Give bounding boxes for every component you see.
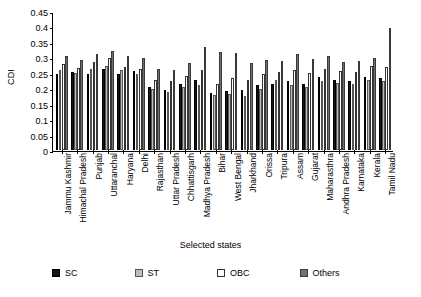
bar-group xyxy=(69,13,84,150)
x-label-cell: Kerala xyxy=(362,153,377,237)
bar-others xyxy=(358,61,361,150)
y-tick-label: 0 xyxy=(43,148,48,157)
bar-others xyxy=(342,62,345,150)
y-tick-mark xyxy=(50,28,53,29)
bar-group xyxy=(239,13,254,150)
y-tick-label: 0.4 xyxy=(35,24,48,33)
y-tick-mark xyxy=(50,13,53,14)
bar-others xyxy=(373,58,376,150)
bar-others xyxy=(65,56,68,150)
bar-group xyxy=(85,13,100,150)
legend-label: OBC xyxy=(230,268,250,278)
bar-others xyxy=(157,69,160,150)
bar-group xyxy=(100,13,115,150)
chart-legend: SCSTOBCOthers xyxy=(52,268,382,278)
legend-swatch-icon xyxy=(300,269,308,277)
y-tick-mark xyxy=(50,137,53,138)
bar-others xyxy=(265,60,268,150)
bar-group xyxy=(116,13,131,150)
y-tick-label: 0.05 xyxy=(30,132,48,141)
x-label-cell: Rajasthan xyxy=(146,153,161,237)
x-label-cell: Punjab xyxy=(84,153,99,237)
x-label-cell: Andhra Pradesh xyxy=(331,153,346,237)
x-label-cell: Karnataka xyxy=(347,153,362,237)
bar-group xyxy=(131,13,146,150)
y-tick-label: 0.15 xyxy=(30,101,48,110)
bar-group xyxy=(177,13,192,150)
bar-others xyxy=(127,56,130,150)
y-tick-label: 0.25 xyxy=(30,70,48,79)
bar-group xyxy=(54,13,69,150)
y-tick-mark xyxy=(50,44,53,45)
bar-group xyxy=(331,13,346,150)
y-tick-mark xyxy=(50,75,53,76)
legend-item-st: ST xyxy=(135,268,218,278)
y-tick-label: 0.1 xyxy=(35,117,48,126)
legend-item-sc: SC xyxy=(52,268,135,278)
cdi-bar-chart: CDI 00.050.10.150.20.250.30.350.40.45 Ja… xyxy=(0,0,421,297)
y-tick-mark xyxy=(50,106,53,107)
bar-others xyxy=(327,56,330,150)
bar-group xyxy=(285,13,300,150)
bar-others xyxy=(204,47,207,150)
bar-others xyxy=(219,52,222,150)
bar-group xyxy=(301,13,316,150)
bar-group xyxy=(208,13,223,150)
bar-groups xyxy=(54,13,393,150)
x-label-cell: Haryana xyxy=(115,153,130,237)
x-tick-label: Tamil Nadu xyxy=(388,153,397,196)
bar-others xyxy=(173,70,176,150)
bar-others xyxy=(235,53,238,150)
legend-swatch-icon xyxy=(52,269,60,277)
x-axis-title: Selected states xyxy=(0,240,421,250)
bar-others xyxy=(96,54,99,150)
legend-label: ST xyxy=(148,268,160,278)
bar-group xyxy=(193,13,208,150)
x-label-cell: Gujarat xyxy=(300,153,315,237)
bar-group xyxy=(270,13,285,150)
x-label-cell: Tripura xyxy=(269,153,284,237)
bar-others xyxy=(142,58,145,150)
bar-group xyxy=(378,13,393,150)
bar-others xyxy=(296,54,299,150)
y-tick-label: 0.45 xyxy=(30,9,48,18)
legend-item-obc: OBC xyxy=(217,268,300,278)
legend-label: Others xyxy=(313,268,340,278)
bar-others xyxy=(281,61,284,150)
plot-area xyxy=(52,13,393,152)
bar-group xyxy=(347,13,362,150)
bar-others xyxy=(312,59,315,150)
x-label-cell: Madhya Pradesh xyxy=(192,153,207,237)
y-tick-mark xyxy=(50,121,53,122)
x-label-cell: Jharkhand xyxy=(238,153,253,237)
x-label-cell: Himachal Pradesh xyxy=(68,153,83,237)
x-label-cell: Jammu Kashmir xyxy=(53,153,68,237)
legend-swatch-icon xyxy=(135,269,143,277)
bar-others xyxy=(250,63,253,150)
bar-others xyxy=(111,51,114,150)
legend-swatch-icon xyxy=(217,269,225,277)
bar-group xyxy=(254,13,269,150)
x-label-cell: Chhattisgarh xyxy=(177,153,192,237)
x-label-cell: Uttar Pradesh xyxy=(161,153,176,237)
bar-others xyxy=(188,63,191,150)
y-tick-mark xyxy=(50,59,53,60)
x-label-cell: Delhi xyxy=(130,153,145,237)
y-tick-label: 0.3 xyxy=(35,55,48,64)
x-label-cell: Orissa xyxy=(254,153,269,237)
x-axis-category-labels: Jammu KashmirHimachal PradeshPunjabUttar… xyxy=(53,153,393,237)
x-label-cell: Assam xyxy=(285,153,300,237)
bar-others xyxy=(80,60,83,150)
bar-group xyxy=(316,13,331,150)
y-tick-label: 0.2 xyxy=(35,86,48,95)
legend-item-others: Others xyxy=(300,268,383,278)
x-label-cell: Uttaranchal xyxy=(99,153,114,237)
x-label-cell: Tamil Nadu xyxy=(378,153,393,237)
y-tick-label: 0.35 xyxy=(30,39,48,48)
x-label-cell: Maharasthra xyxy=(316,153,331,237)
bar-group xyxy=(146,13,161,150)
bar-group xyxy=(223,13,238,150)
legend-label: SC xyxy=(65,268,78,278)
bar-group xyxy=(162,13,177,150)
bar-group xyxy=(362,13,377,150)
